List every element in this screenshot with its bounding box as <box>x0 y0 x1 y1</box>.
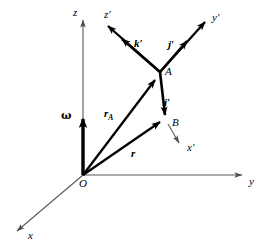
axis-x-label: x <box>28 230 33 241</box>
vector-r-shaft <box>83 122 160 175</box>
axis-y-label: y <box>249 176 254 187</box>
unit-vector-i-prime-label: i′ <box>164 97 170 108</box>
axis-x-prime-label: x′ <box>187 142 194 153</box>
vector-r-label: r <box>131 148 135 159</box>
vector-rA-label: rA <box>104 108 113 122</box>
fixed-axes-group <box>17 20 242 231</box>
point-B-label: B <box>172 117 179 128</box>
axis-z-label: z <box>73 7 77 18</box>
vector-rA-subscript: A <box>108 113 113 122</box>
point-A-label: A <box>165 66 172 77</box>
axis-x-line <box>17 175 83 231</box>
position-vectors-group <box>83 80 160 175</box>
vector-diagram-figure: z y x z′ y′ x′ O A B ω rA r i′ j′ k′ <box>0 0 270 248</box>
vector-omega-label: ω <box>61 110 71 121</box>
unit-vector-k-prime-label: k′ <box>134 38 143 49</box>
axis-z-prime-label: z′ <box>104 9 111 20</box>
unit-vector-j-prime-label: j′ <box>168 39 174 50</box>
unit-vector-i-prime-shaft <box>160 72 165 115</box>
axis-y-prime-label: y′ <box>212 12 219 23</box>
vector-rA-shaft <box>83 80 155 175</box>
point-O-label: O <box>79 178 87 189</box>
unit-vectors-group <box>122 39 187 115</box>
